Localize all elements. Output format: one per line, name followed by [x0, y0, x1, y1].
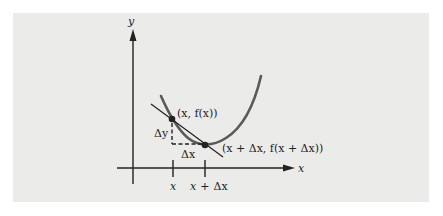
x-axis-label: x: [298, 162, 305, 175]
x-axis-arrow-icon: [283, 165, 295, 172]
y-axis: y: [127, 15, 137, 184]
x-axis: x: [117, 162, 305, 175]
secant-line-diagram: y x x x+Δx Δy Δx (x, f(x)) (x + Δx, f(x …: [0, 0, 443, 216]
tick-label-x-plus-dx: x+Δx: [190, 180, 228, 193]
y-axis-arrow-icon: [130, 29, 137, 41]
x-ticks: x x+Δx: [170, 160, 228, 193]
point-label-1: (x, f(x)): [177, 107, 218, 120]
dy-label: Δy: [154, 127, 169, 140]
point-x-plus-dx: [202, 142, 209, 149]
dx-label: Δx: [181, 148, 196, 161]
tick-label-x: x: [170, 180, 177, 193]
y-axis-label: y: [127, 15, 135, 28]
point-x-fx: [169, 116, 176, 123]
point-label-2: (x + Δx, f(x + Δx)): [222, 142, 323, 155]
